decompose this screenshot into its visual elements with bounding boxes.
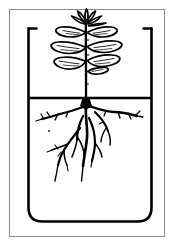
beaker <box>29 29 152 222</box>
figure-root: Plant growing in a beaker of water <box>0 0 176 248</box>
leaf-3-left <box>54 57 85 69</box>
root-branch-right-mid-fork-a <box>108 131 110 145</box>
lateral-root-left-tip <box>36 119 42 121</box>
stem-group <box>86 16 89 98</box>
lateral-root-right-tip <box>137 116 143 117</box>
root-branch-left-long-fork-b <box>64 150 67 165</box>
root-branch-left-long-tip <box>55 165 58 181</box>
beaker-body-outline <box>29 29 152 222</box>
leaf-2-left <box>51 42 85 54</box>
lateral-root-right-branch-c <box>136 111 140 115</box>
root-branch-inner-right-tip <box>91 161 92 167</box>
taproot-tip <box>82 166 84 181</box>
root-branch-inner-left-fork-b <box>78 138 84 156</box>
leaf-2-right <box>88 41 122 53</box>
root-branch-inner-right <box>89 118 95 161</box>
plant-beaker-illustration <box>0 0 176 248</box>
root-branch-inner-right-fork <box>95 143 102 157</box>
root-system <box>36 98 143 181</box>
root-speck <box>48 130 50 132</box>
root-branch-inner-left-fork-a <box>72 140 77 157</box>
root-branch-right-mid-fork-b <box>101 128 106 142</box>
root-branch-right-mid-hair <box>99 122 103 124</box>
root-branch-left-long-fork-a-tip <box>47 150 52 152</box>
taproot <box>83 106 87 166</box>
leaf-3-right <box>88 55 120 67</box>
root-branch-left-long-fork-b-tip <box>67 165 68 171</box>
apical-leaf-cluster <box>72 9 107 26</box>
